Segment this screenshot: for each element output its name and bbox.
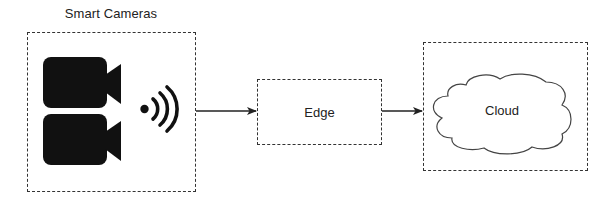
edge-node[interactable]: Edge: [257, 79, 382, 145]
smart-cameras-group[interactable]: [27, 32, 196, 192]
smart-cameras-title: Smart Cameras: [27, 6, 195, 21]
cloud-label: Cloud: [432, 103, 572, 118]
edge-label: Edge: [304, 105, 334, 120]
